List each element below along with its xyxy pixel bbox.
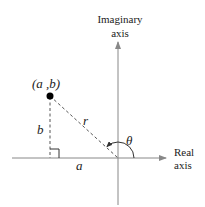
real-axis-label-line2: axis bbox=[174, 159, 192, 171]
right-angle-marker bbox=[50, 149, 59, 158]
complex-plane-diagram: Imaginary axis Real axis (a ,b) b a r θ bbox=[0, 0, 205, 207]
angle-theta-label: θ bbox=[126, 133, 133, 148]
segment-r-label: r bbox=[83, 113, 89, 128]
imaginary-axis-label-line1: Imaginary bbox=[97, 13, 143, 25]
segment-b-label: b bbox=[37, 122, 44, 137]
point-a-b bbox=[47, 93, 54, 100]
point-label: (a ,b) bbox=[32, 76, 60, 91]
imaginary-axis-label-line2: axis bbox=[111, 27, 129, 39]
real-axis-label-line1: Real bbox=[174, 146, 194, 158]
segment-a-label: a bbox=[76, 158, 83, 173]
